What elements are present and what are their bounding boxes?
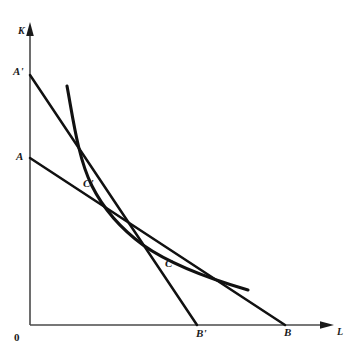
labour-axis-label: L [337,327,343,337]
point-label-a-prime: A' [13,66,24,77]
point-label-b: B [284,327,292,338]
point-label-c: C [165,258,173,269]
capital-axis-arrow-icon [26,22,34,36]
point-label-c-prime: C' [83,178,94,189]
point-label-b-prime: B' [196,328,207,339]
capital-axis-label: K [18,26,25,36]
isocost-line-a-prime-b-prime [30,75,197,325]
isocost-line-ab [30,158,285,325]
diagram-canvas [0,0,360,355]
isoquant-curve [67,86,248,290]
origin-label: 0 [14,332,20,343]
isoquant-isocost-diagram: K L 0 A' A C' C B' B [0,0,360,355]
point-label-a: A [16,151,24,162]
labour-axis-arrow-icon [320,321,334,329]
